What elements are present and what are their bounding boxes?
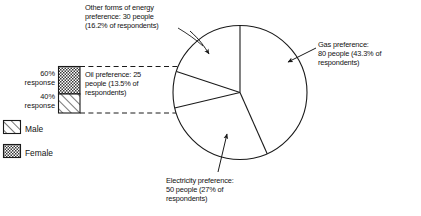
pie-label-electricity: Electricity preference: 50 people (27% o…	[166, 176, 290, 204]
pie-label-oil: Oil preference: 25 people (13.5% of resp…	[85, 70, 161, 98]
legend-swatch-male	[4, 121, 21, 134]
leader-curve-other	[178, 28, 203, 46]
breakout-segment-male	[59, 94, 81, 113]
pie-label-gas: Gas preference: 80 people (43.3% of resp…	[318, 40, 420, 68]
pie-label-other-energy: Other forms of energy preference: 30 peo…	[85, 3, 215, 31]
legend-label-male: Male	[25, 124, 43, 134]
legend-swatch-female	[4, 145, 21, 158]
breakout-label-female-response: 60% response	[3, 69, 55, 87]
legend-label-female: Female	[25, 148, 53, 158]
chart-canvas: Other forms of energy preference: 30 peo…	[0, 0, 421, 216]
breakout-segment-female	[59, 67, 81, 95]
breakout-label-male-response: 40% response	[3, 92, 55, 110]
